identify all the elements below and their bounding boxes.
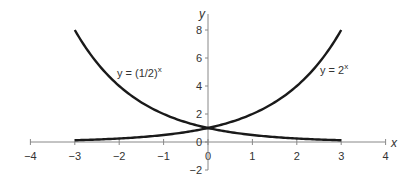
x-tick-label: 2: [294, 150, 300, 162]
curve-label-half-power-x: y = (1/2)x: [117, 65, 162, 79]
curve-label-two-power-x: y = 2x: [320, 62, 348, 76]
y-tick-label: 6: [196, 52, 202, 64]
y-axis-label: y: [198, 7, 206, 21]
y-tick-label: 8: [196, 24, 202, 36]
y-tick-label: 4: [196, 80, 202, 92]
x-axis-label: x: [390, 136, 398, 150]
chart: −4−3−2−101234 x −202468 y y = (1/2)x y =…: [0, 0, 414, 186]
x-tick-label: 3: [338, 150, 344, 162]
y-tick-label: 2: [196, 108, 202, 120]
x-tick-label: −2: [113, 150, 126, 162]
x-tick-label: −3: [69, 150, 82, 162]
y-tick-label: −2: [189, 164, 202, 176]
x-tick-label: −4: [24, 150, 37, 162]
x-tick-label: −1: [157, 150, 170, 162]
x-tick-label: 4: [383, 150, 389, 162]
y-tick-label: 0: [196, 136, 202, 148]
x-tick-label: 1: [249, 150, 255, 162]
